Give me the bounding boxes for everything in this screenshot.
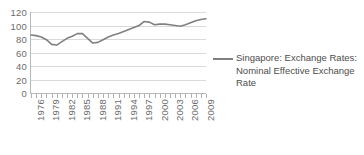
legend-series-label: Singapore: Exchange Rates: Nominal Effec… — [236, 52, 360, 90]
y-tick-label: 20 — [16, 74, 27, 85]
x-tick — [144, 94, 145, 98]
y-tick-label: 80 — [16, 34, 27, 45]
x-tick-label: 2000 — [159, 99, 170, 121]
x-tick — [72, 94, 73, 98]
x-tick — [139, 94, 140, 98]
x-tick — [67, 94, 68, 98]
y-axis-tick-labels: 120100806040200 — [0, 12, 27, 93]
y-tick-label: 120 — [11, 7, 27, 18]
x-tick — [196, 94, 197, 98]
y-tick-label: 100 — [11, 20, 27, 31]
x-tick — [185, 94, 186, 98]
x-tick — [160, 94, 161, 98]
x-tick — [124, 94, 125, 98]
x-tick — [103, 94, 104, 98]
x-tick — [134, 94, 135, 98]
x-tick-label: 1982 — [66, 99, 77, 121]
y-tick-label: 40 — [16, 61, 27, 72]
y-tick-label: 0 — [22, 88, 27, 99]
x-tick — [155, 94, 156, 98]
y-tick-label: 60 — [16, 47, 27, 58]
x-tick-label: 1991 — [112, 99, 123, 121]
x-tick — [46, 94, 47, 98]
series-line — [31, 19, 206, 45]
chart-legend: Singapore: Exchange Rates: Nominal Effec… — [213, 52, 361, 90]
x-axis-tick-labels: 1976197919821985198819911994199720002003… — [31, 99, 206, 149]
x-tick-label: 2006 — [189, 99, 200, 121]
x-tick — [36, 94, 37, 98]
x-axis-ticks — [31, 94, 206, 98]
x-tick — [175, 94, 176, 98]
plot-area — [31, 12, 206, 93]
x-tick — [119, 94, 120, 98]
x-tick — [98, 94, 99, 98]
x-tick — [149, 94, 150, 98]
x-tick — [206, 94, 207, 98]
x-tick — [52, 94, 53, 98]
x-tick-label: 1979 — [50, 99, 61, 121]
x-tick — [57, 94, 58, 98]
x-tick — [62, 94, 63, 98]
x-tick-label: 2009 — [205, 99, 216, 121]
x-tick — [113, 94, 114, 98]
x-tick — [82, 94, 83, 98]
x-tick — [165, 94, 166, 98]
exchange-rate-line-chart: 120100806040200 197619791982198519881991… — [0, 0, 364, 155]
legend-line-swatch — [213, 58, 233, 60]
x-tick-label: 2003 — [174, 99, 185, 121]
x-tick — [191, 94, 192, 98]
x-tick-label: 1994 — [128, 99, 139, 121]
x-tick-label: 1997 — [143, 99, 154, 121]
x-tick — [108, 94, 109, 98]
x-tick — [201, 94, 202, 98]
x-tick — [170, 94, 171, 98]
x-tick — [31, 94, 32, 98]
x-tick — [88, 94, 89, 98]
x-tick-label: 1976 — [35, 99, 46, 121]
x-tick — [77, 94, 78, 98]
x-tick — [41, 94, 42, 98]
x-tick — [180, 94, 181, 98]
series-line-group — [31, 12, 206, 93]
x-tick-label: 1985 — [81, 99, 92, 121]
x-tick-label: 1988 — [97, 99, 108, 121]
x-tick — [93, 94, 94, 98]
x-tick — [129, 94, 130, 98]
